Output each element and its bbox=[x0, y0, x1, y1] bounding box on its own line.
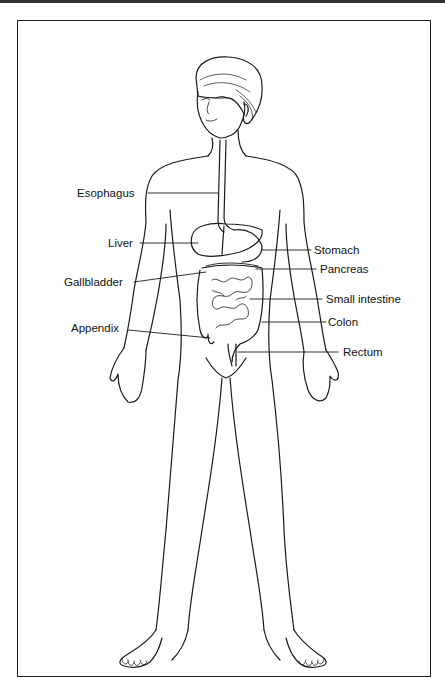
stomach-organ bbox=[234, 230, 262, 262]
right-foot bbox=[264, 630, 326, 667]
label-stomach: Stomach bbox=[314, 244, 359, 256]
esophagus-organ bbox=[218, 140, 234, 232]
right-toes bbox=[299, 658, 324, 665]
label-appendix: Appendix bbox=[71, 322, 119, 334]
right-hand bbox=[303, 350, 338, 401]
label-esophagus: Esophagus bbox=[77, 187, 135, 199]
label-colon: Colon bbox=[328, 316, 358, 328]
rectum-organ bbox=[228, 344, 236, 366]
inner-right-leg bbox=[230, 378, 264, 630]
left-hand bbox=[110, 348, 146, 402]
label-liver: Liver bbox=[108, 237, 133, 249]
small-intestine-organ bbox=[212, 277, 252, 328]
pelvis bbox=[206, 358, 246, 378]
leader-gallbladder bbox=[134, 272, 206, 282]
label-gallbladder: Gallbladder bbox=[64, 276, 123, 288]
label-pancreas: Pancreas bbox=[320, 263, 369, 275]
leader-lines bbox=[128, 193, 338, 352]
leader-appendix bbox=[128, 330, 210, 338]
colon-organ bbox=[197, 265, 263, 362]
nose-mouth bbox=[206, 102, 217, 121]
left-foot bbox=[120, 630, 188, 667]
inner-left-leg bbox=[188, 378, 222, 630]
liver-organ bbox=[191, 224, 262, 257]
label-rectum: Rectum bbox=[343, 346, 383, 358]
appendix-organ bbox=[208, 334, 214, 344]
right-arm-inner bbox=[286, 224, 304, 352]
left-toes bbox=[122, 658, 147, 665]
neck bbox=[208, 130, 246, 156]
label-small-intestine: Small intestine bbox=[326, 293, 401, 305]
head bbox=[196, 57, 262, 138]
left-torso-side bbox=[156, 210, 181, 630]
